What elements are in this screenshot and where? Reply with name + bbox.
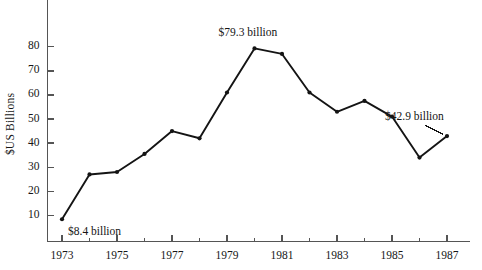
- data-point-marker: [280, 52, 284, 56]
- data-point-marker: [197, 136, 201, 140]
- data-point-marker: [445, 134, 449, 138]
- chart-canvas: [0, 0, 482, 270]
- data-point-marker: [87, 172, 91, 176]
- data-point-marker: [225, 90, 229, 94]
- series-line: [62, 48, 447, 219]
- data-point-marker: [417, 155, 421, 159]
- data-point-marker: [142, 152, 146, 156]
- annotation-leader-lines: [425, 125, 443, 134]
- data-point-marker: [170, 129, 174, 133]
- data-point-marker: [307, 90, 311, 94]
- leader-line-last-point: [425, 125, 443, 134]
- chart-axes: [48, 0, 471, 242]
- data-point-marker: [60, 217, 64, 221]
- line-chart: $US Billions 1020304050607080 1973197519…: [0, 0, 482, 270]
- data-point-marker: [390, 114, 394, 118]
- data-point-marker: [362, 99, 366, 103]
- data-series-group: [60, 46, 449, 221]
- data-point-marker: [115, 170, 119, 174]
- data-point-marker: [335, 110, 339, 114]
- data-point-marker: [252, 46, 256, 50]
